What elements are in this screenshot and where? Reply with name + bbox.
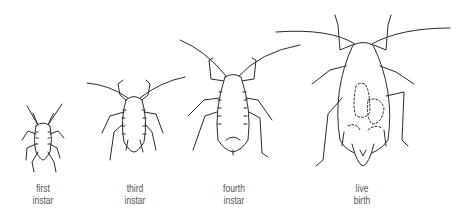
label-line-1: fourth [209,183,260,195]
third-instar-aphid-drawing [87,77,185,160]
label-line-2: instar [110,195,161,207]
label-live-birth: live birth [337,183,388,207]
label-line-2: instar [209,195,260,207]
label-line-1: third [110,183,161,195]
label-third-instar: third instar [110,183,161,207]
label-line-2: birth [337,195,388,207]
first-instar-aphid-drawing [22,104,64,172]
label-line-1: first [18,183,69,195]
fourth-instar-aphid-drawing [180,40,300,157]
live-birth-aphid-drawing [276,15,450,166]
label-line-2: instar [18,195,69,207]
label-line-1: live [337,183,388,195]
label-first-instar: first instar [18,183,69,207]
label-fourth-instar: fourth instar [209,183,260,207]
